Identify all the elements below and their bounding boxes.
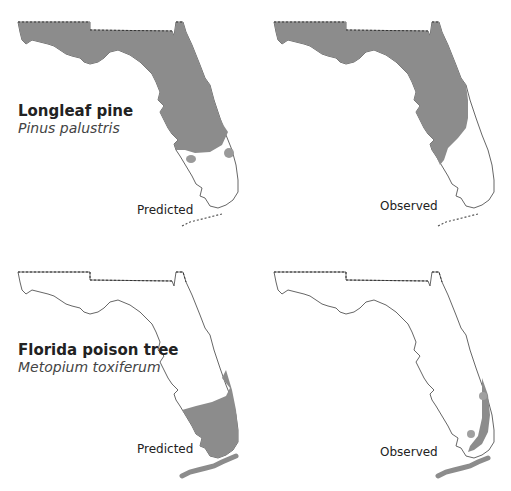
observed-range-fill (274, 22, 468, 165)
florida-keys (438, 214, 478, 226)
species-label: Longleaf pine Pinus palustris (18, 103, 133, 136)
caption-observed: Observed (380, 445, 438, 459)
keys-range-fill (182, 456, 236, 476)
map-panel-poisontree-predicted: Florida poison tree Metopium toxiferum P… (0, 250, 255, 491)
range-patch (186, 155, 196, 163)
species-common-name: Longleaf pine (18, 103, 133, 120)
species-scientific-name: Pinus palustris (18, 120, 133, 136)
species-label: Florida poison tree Metopium toxiferum (18, 342, 179, 375)
caption-observed: Observed (380, 199, 438, 213)
caption-predicted: Predicted (137, 442, 193, 456)
keys-range-fill (438, 458, 488, 476)
caption-predicted: Predicted (137, 203, 193, 217)
map-panel-poisontree-observed: Observed (256, 250, 511, 491)
map-panel-longleaf-observed: Observed (256, 0, 511, 245)
range-patch (479, 392, 487, 400)
range-patch (224, 148, 234, 158)
range-patch (467, 430, 475, 438)
species-scientific-name: Metopium toxiferum (18, 359, 179, 375)
map-panel-longleaf-predicted: Longleaf pine Pinus palustris Predicted (0, 0, 255, 245)
species-common-name: Florida poison tree (18, 342, 179, 359)
